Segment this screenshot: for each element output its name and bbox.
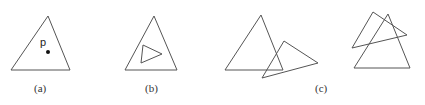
triangle-c1-small — [262, 41, 318, 78]
point-p-dot — [46, 50, 50, 54]
triangle-c1-large — [225, 15, 283, 70]
triangle-b-outer — [125, 16, 177, 70]
triangle-figure: p (a) (b) (c) — [0, 0, 425, 105]
point-p-label: p — [40, 36, 46, 48]
triangle-c2-tilted — [352, 12, 407, 48]
label-b: (b) — [145, 82, 158, 95]
label-a: (a) — [34, 82, 47, 95]
label-c: (c) — [315, 82, 328, 95]
triangle-b-inner — [141, 45, 162, 63]
